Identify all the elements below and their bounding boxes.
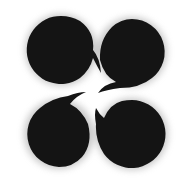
pinwheel-figure <box>0 0 186 185</box>
four-commas-pinwheel-icon <box>0 0 186 185</box>
comma-top-left-shape <box>27 16 101 84</box>
comma-bottom-left-shape <box>27 92 89 167</box>
